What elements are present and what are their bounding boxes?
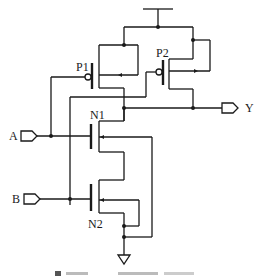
label-a: A (9, 129, 18, 143)
transistor-p2: P2 (156, 38, 210, 89)
label-y: Y (245, 101, 254, 115)
schematic: P1 P2 Y N1 A (0, 0, 257, 276)
figure-caption (55, 271, 194, 276)
input-port-b: B (12, 192, 40, 206)
output-port-y: Y (222, 101, 254, 115)
label-n1: N1 (90, 108, 105, 122)
label-p1: P1 (76, 60, 89, 74)
transistor-p1: P1 (51, 43, 138, 89)
vdd-symbol (143, 9, 173, 27)
transistor-n2: N2 (88, 180, 139, 231)
label-n2: N2 (88, 217, 103, 231)
ground-symbol (118, 255, 130, 264)
input-port-a: A (9, 129, 37, 143)
transistor-n1: N1 (90, 108, 152, 152)
label-p2: P2 (156, 46, 169, 60)
label-b: B (12, 192, 20, 206)
